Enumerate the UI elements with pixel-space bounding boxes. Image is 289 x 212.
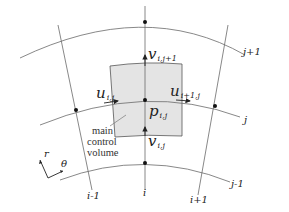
label-u-i-plus-1-j: ui+1,j xyxy=(170,82,201,100)
label-v-i-j-plus-1: vi,j+1 xyxy=(148,45,177,63)
grid-line-j-plus-1 xyxy=(20,27,245,58)
node-i-j-minus-1 xyxy=(143,161,147,165)
label-j: j xyxy=(242,114,247,125)
axis-label-theta: θ xyxy=(61,158,67,169)
node-i-j-plus-1 xyxy=(143,20,147,24)
polar-grid-diagram: ui,j ui+1,j pi,j vi,j+1 vi,j main contro… xyxy=(0,0,289,212)
label-j-plus-1: j+1 xyxy=(241,46,261,57)
cv-label-line-1: main xyxy=(92,125,114,136)
label-i-plus-1: i+1 xyxy=(190,194,208,205)
grid-line-i-plus-1 xyxy=(198,25,228,195)
label-i: i xyxy=(143,187,146,198)
cv-label-line-3: volume xyxy=(87,147,119,158)
label-i-minus-1: i-1 xyxy=(87,190,100,201)
node-pressure-i-j xyxy=(143,98,147,102)
cv-label-line-2: control xyxy=(87,136,117,147)
node-i-plus-1-j xyxy=(213,104,217,108)
label-j-minus-1: j-1 xyxy=(229,178,244,189)
node-i-minus-1-j xyxy=(74,108,78,112)
axis-label-r: r xyxy=(44,148,50,159)
